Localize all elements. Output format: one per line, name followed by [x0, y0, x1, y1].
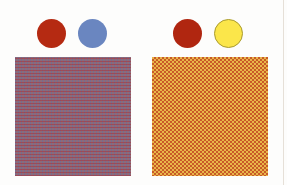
red-swatch-circle	[37, 19, 66, 48]
red-yellow-optical-mix-square	[152, 57, 268, 176]
blue-swatch-circle	[78, 19, 107, 48]
red-swatch-circle	[173, 19, 202, 48]
yellow-swatch-circle	[214, 19, 243, 48]
red-blue-optical-mix-square	[15, 57, 131, 176]
page-edge-line	[283, 0, 284, 185]
